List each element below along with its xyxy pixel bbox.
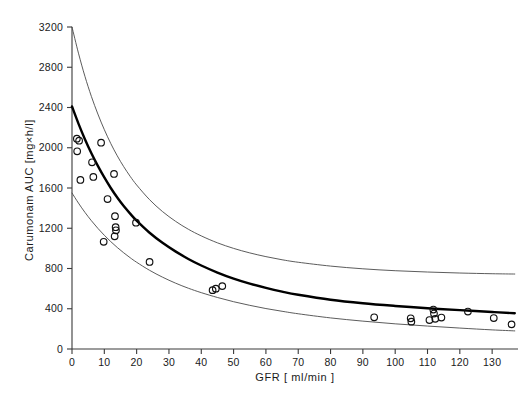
y-tick-label: 400 [45, 302, 63, 314]
y-tick-label: 1200 [39, 222, 63, 234]
data-point [146, 259, 153, 266]
x-tick-label: 110 [419, 356, 436, 368]
y-tick-label: 2400 [39, 101, 63, 113]
x-tick-label: 0 [69, 356, 75, 368]
x-tick-label: 80 [325, 356, 337, 368]
y-axis-ticks: 0400800120016002000240028003200 [39, 21, 72, 355]
y-tick-label: 800 [45, 262, 63, 274]
data-points-group [74, 135, 515, 327]
data-point [112, 213, 119, 220]
y-axis-title: Carumonam AUC [mg×h/l] [23, 119, 35, 261]
data-point [111, 233, 118, 240]
x-tick-label: 70 [292, 356, 304, 368]
x-tick-label: 120 [451, 356, 469, 368]
data-point [77, 177, 84, 184]
data-point [104, 196, 111, 203]
y-tick-label: 1600 [39, 182, 63, 194]
x-tick-label: 130 [483, 356, 501, 368]
x-tick-label: 20 [131, 356, 143, 368]
x-tick-label: 90 [357, 356, 369, 368]
data-point [490, 315, 497, 322]
x-axis-ticks: 0102030405060708090100110120130 [69, 349, 501, 368]
x-tick-label: 50 [228, 356, 240, 368]
data-point [100, 239, 107, 246]
data-point [90, 174, 97, 181]
data-point [111, 171, 118, 178]
data-point [508, 321, 515, 328]
y-tick-label: 2800 [39, 61, 63, 73]
x-tick-label: 100 [386, 356, 404, 368]
chart-container: 0400800120016002000240028003200 01020304… [0, 0, 527, 396]
data-point [438, 314, 445, 321]
data-point [371, 314, 378, 321]
x-tick-label: 10 [98, 356, 110, 368]
scatter-plot: 0400800120016002000240028003200 01020304… [0, 0, 527, 396]
data-point [219, 283, 226, 290]
fitted-regression-curve [72, 106, 515, 313]
upper-confidence-band [72, 27, 515, 274]
x-tick-label: 60 [260, 356, 272, 368]
x-tick-label: 40 [195, 356, 207, 368]
data-point [74, 148, 81, 155]
x-axis-title: GFR [ ml/min ] [255, 371, 334, 383]
y-tick-label: 2000 [39, 141, 63, 153]
x-tick-label: 30 [163, 356, 175, 368]
y-tick-label: 3200 [39, 21, 63, 33]
data-point [89, 159, 96, 166]
y-tick-label: 0 [57, 343, 63, 355]
data-point [98, 139, 105, 146]
